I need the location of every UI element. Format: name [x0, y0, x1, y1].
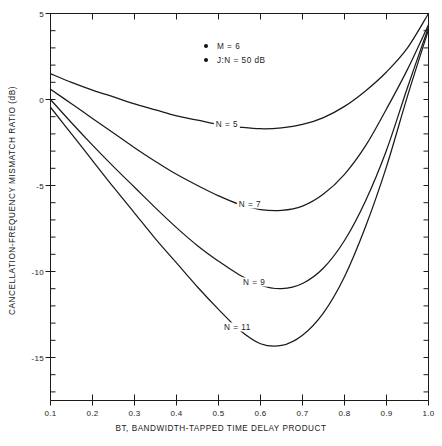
legend-item-label: J:N = 50 dB	[217, 56, 266, 65]
y-axis-tick-label: -10	[20, 267, 44, 276]
series-label: N = 7	[237, 200, 263, 209]
series-label: N = 9	[241, 277, 267, 286]
y-axis-label: CANCELLATION-FREQUENCY MISMATCH RATIO (d…	[8, 85, 17, 314]
figure-canvas: CANCELLATION-FREQUENCY MISMATCH RATIO (d…	[0, 0, 442, 446]
y-axis-label-wrapper: CANCELLATION-FREQUENCY MISMATCH RATIO (d…	[0, 0, 24, 400]
y-axis-tick-label: 0	[20, 95, 44, 104]
x-axis-tick-label: 0.2	[86, 409, 98, 418]
y-axis-tick-label: -5	[20, 181, 44, 190]
x-axis-tick-label: 1.0	[422, 409, 434, 418]
legend-item: M = 6	[204, 40, 266, 52]
series-curve-5	[51, 14, 429, 129]
x-axis-tick-label: 0.1	[44, 409, 56, 418]
x-axis-label: BT, BANDWIDTH-TAPPED TIME DELAY PRODUCT	[0, 424, 442, 433]
x-axis-tick-label: 0.8	[338, 409, 350, 418]
y-axis-tick-label: -15	[20, 353, 44, 362]
legend-item: J:N = 50 dB	[204, 54, 266, 66]
x-axis-tick-label: 0.3	[128, 409, 140, 418]
legend-item-label: M = 6	[217, 42, 240, 51]
y-axis-tick-label: 5	[20, 9, 44, 18]
x-axis-tick-label: 0.6	[254, 409, 266, 418]
x-axis-tick-label: 0.7	[296, 409, 308, 418]
filled-circle-icon	[204, 44, 208, 48]
series-label: N = 11	[222, 322, 253, 331]
filled-circle-icon	[204, 58, 208, 62]
series-label: N = 5	[214, 120, 240, 129]
x-axis-tick-label: 0.9	[380, 409, 392, 418]
x-axis-tick-label: 0.4	[170, 409, 182, 418]
chart-legend: M = 6 J:N = 50 dB	[204, 40, 266, 68]
x-axis-tick-label: 0.5	[212, 409, 224, 418]
